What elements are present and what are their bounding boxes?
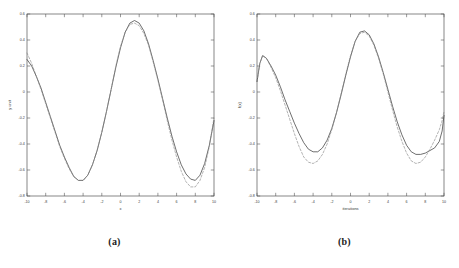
y-tick-label: -0.8 [19,194,25,198]
y-tick-label: 0.6 [250,12,255,16]
plot-area-a: -10-8-6-4-20246810-0.8-0.6-0.4-0.200.20.… [0,0,229,232]
y-tick-label: -0.2 [249,116,255,120]
x-tick-label: -10 [254,200,259,204]
x-tick-label: -8 [44,200,47,204]
x-tick-label: 0 [350,200,352,204]
y-axis-title: y unit [7,99,12,109]
y-axis-title: f(x) [237,101,242,107]
x-tick-label: 8 [424,200,426,204]
x-tick-label: 8 [194,200,196,204]
x-tick-label: 2 [138,200,140,204]
subfigure-b: -10-8-6-4-20246810-0.8-0.6-0.4-0.200.20.… [230,0,459,268]
x-tick-label: -4 [311,200,314,204]
plot-area-b: -10-8-6-4-20246810-0.8-0.6-0.4-0.200.20.… [230,0,459,232]
chart-b-content: -10-8-6-4-20246810-0.8-0.6-0.4-0.200.20.… [237,12,446,210]
x-tick-label: -10 [24,200,29,204]
chart-a-content: -10-8-6-4-20246810-0.8-0.6-0.4-0.200.20.… [7,12,216,210]
series-solid [257,31,444,154]
x-tick-label: -2 [100,200,103,204]
y-tick-label: 0.2 [250,64,255,68]
x-tick-label: 4 [157,200,159,204]
x-tick-label: 6 [176,200,178,204]
x-tick-label: -8 [274,200,277,204]
y-tick-label: 0.6 [20,12,25,16]
x-tick-label: -6 [63,200,66,204]
x-tick-label: 6 [406,200,408,204]
series-dashed [27,23,214,187]
x-tick-label: -2 [330,200,333,204]
x-tick-label: 2 [368,200,370,204]
x-tick-label: 10 [442,200,446,204]
y-tick-label: -0.6 [19,168,25,172]
x-axis-title: iterations [342,206,358,211]
x-tick-label: -4 [81,200,84,204]
caption-b: (b) [230,236,459,247]
chart-b: -10-8-6-4-20246810-0.8-0.6-0.4-0.200.20.… [230,0,459,232]
y-tick-label: 0 [253,90,255,94]
y-tick-label: 0.4 [250,38,255,42]
y-tick-label: -0.4 [249,142,255,146]
x-tick-label: 10 [212,200,216,204]
subfigure-a: -10-8-6-4-20246810-0.8-0.6-0.4-0.200.20.… [0,0,229,268]
caption-a: (a) [0,236,229,247]
series-dashed [257,32,444,163]
x-tick-label: 0 [120,200,122,204]
y-tick-label: 0 [23,90,25,94]
y-tick-label: -0.8 [249,194,255,198]
x-tick-label: -6 [293,200,296,204]
figure-container: -10-8-6-4-20246810-0.8-0.6-0.4-0.200.20.… [0,0,459,268]
x-axis-title: x [120,206,122,211]
series-solid [27,21,214,181]
y-tick-label: 0.2 [20,64,25,68]
y-tick-label: -0.2 [19,116,25,120]
chart-a: -10-8-6-4-20246810-0.8-0.6-0.4-0.200.20.… [0,0,229,232]
y-tick-label: -0.6 [249,168,255,172]
y-tick-label: 0.4 [20,38,25,42]
y-tick-label: -0.4 [19,142,25,146]
x-tick-label: 4 [387,200,389,204]
